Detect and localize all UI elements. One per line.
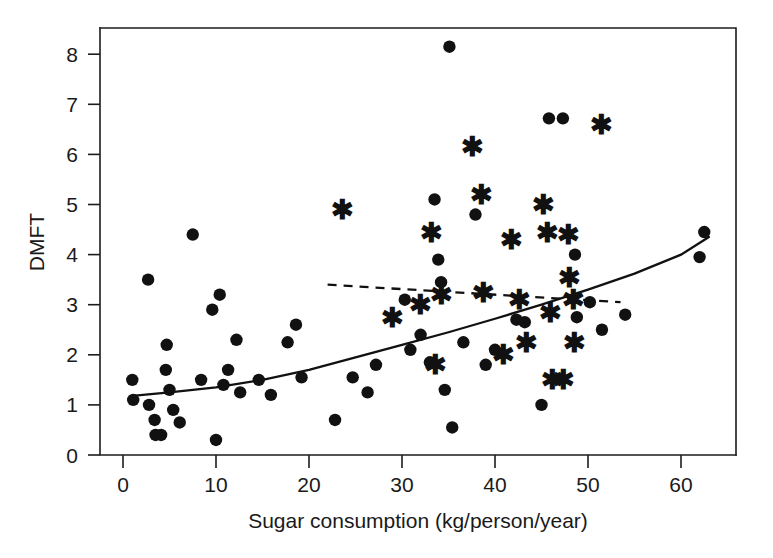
y-tick-label: 5 bbox=[66, 193, 78, 216]
data-point-star: ✱ bbox=[557, 220, 580, 250]
data-point-star: ✱ bbox=[461, 132, 484, 162]
x-axis-ticks: 0102030405060 bbox=[117, 455, 693, 496]
data-point-circle bbox=[281, 336, 293, 348]
data-point-star: ✱ bbox=[515, 328, 538, 358]
plot-frame bbox=[100, 28, 736, 455]
x-tick-label: 50 bbox=[576, 473, 599, 496]
data-point-circle bbox=[457, 336, 469, 348]
x-tick-label: 0 bbox=[117, 473, 129, 496]
y-tick-label: 1 bbox=[66, 393, 78, 416]
data-point-circle bbox=[148, 414, 160, 426]
data-point-circle bbox=[569, 248, 581, 260]
data-point-circle bbox=[174, 416, 186, 428]
data-point-circle bbox=[596, 324, 608, 336]
data-point-star: ✱ bbox=[472, 278, 495, 308]
data-point-circle bbox=[230, 334, 242, 346]
y-axis-ticks: 012345678 bbox=[66, 43, 100, 467]
y-tick-label: 2 bbox=[66, 343, 78, 366]
data-point-circle bbox=[214, 288, 226, 300]
data-point-circle bbox=[195, 374, 207, 386]
x-tick-label: 30 bbox=[390, 473, 413, 496]
data-point-circle bbox=[163, 384, 175, 396]
data-point-circle bbox=[519, 316, 531, 328]
data-point-circle bbox=[222, 364, 234, 376]
chart-figure: 012345678 0102030405060 ✱✱✱✱✱✱✱✱✱✱✱✱✱✱✱✱… bbox=[0, 0, 773, 558]
x-tick-label: 20 bbox=[297, 473, 320, 496]
data-point-circle bbox=[428, 193, 440, 205]
y-axis-title: DMFT bbox=[25, 213, 48, 271]
data-point-star: ✱ bbox=[420, 218, 443, 248]
data-point-circle bbox=[160, 364, 172, 376]
data-point-circle bbox=[161, 339, 173, 351]
data-point-star: ✱ bbox=[470, 180, 493, 210]
data-point-circle bbox=[443, 40, 455, 52]
data-point-star: ✱ bbox=[563, 328, 586, 358]
y-tick-label: 6 bbox=[66, 143, 78, 166]
y-tick-label: 8 bbox=[66, 43, 78, 66]
data-point-circle bbox=[217, 379, 229, 391]
data-point-circle bbox=[584, 296, 596, 308]
data-point-star: ✱ bbox=[331, 195, 354, 225]
data-point-circle bbox=[543, 112, 555, 124]
x-tick-label: 40 bbox=[483, 473, 506, 496]
data-point-star: ✱ bbox=[508, 285, 531, 315]
data-point-circle bbox=[619, 309, 631, 321]
data-point-circle bbox=[143, 399, 155, 411]
y-tick-label: 0 bbox=[66, 444, 78, 467]
y-tick-label: 4 bbox=[66, 243, 78, 266]
data-point-circle bbox=[432, 253, 444, 265]
data-point-circle bbox=[557, 112, 569, 124]
data-point-circle bbox=[347, 371, 359, 383]
data-point-circle bbox=[480, 359, 492, 371]
data-point-circle bbox=[290, 319, 302, 331]
data-point-circle bbox=[210, 434, 222, 446]
data-point-star: ✱ bbox=[552, 365, 575, 395]
data-point-star: ✱ bbox=[492, 340, 515, 370]
data-point-circle bbox=[698, 226, 710, 238]
x-tick-label: 60 bbox=[669, 473, 692, 496]
data-point-circle bbox=[265, 389, 277, 401]
data-point-star: ✱ bbox=[430, 280, 453, 310]
data-point-circle bbox=[404, 344, 416, 356]
data-point-circle bbox=[439, 384, 451, 396]
data-point-star: ✱ bbox=[381, 303, 404, 333]
data-point-circle bbox=[329, 414, 341, 426]
data-point-circle bbox=[187, 228, 199, 240]
data-point-circle bbox=[206, 304, 218, 316]
data-point-circle bbox=[127, 394, 139, 406]
data-point-circle bbox=[295, 371, 307, 383]
data-point-star: ✱ bbox=[539, 298, 562, 328]
data-point-circle bbox=[361, 386, 373, 398]
data-point-circle bbox=[469, 208, 481, 220]
axis-top-right bbox=[100, 28, 736, 455]
data-point-circle bbox=[414, 329, 426, 341]
data-point-star: ✱ bbox=[532, 190, 555, 220]
data-point-circle bbox=[234, 386, 246, 398]
circle-markers-layer bbox=[126, 40, 710, 446]
x-axis-title: Sugar consumption (kg/person/year) bbox=[248, 509, 588, 532]
data-point-star: ✱ bbox=[562, 285, 585, 315]
data-point-circle bbox=[370, 359, 382, 371]
data-point-circle bbox=[535, 399, 547, 411]
data-point-circle bbox=[155, 429, 167, 441]
axis-left-bottom bbox=[100, 28, 736, 455]
data-point-circle bbox=[446, 421, 458, 433]
data-point-circle bbox=[126, 374, 138, 386]
data-point-circle bbox=[167, 404, 179, 416]
y-tick-label: 7 bbox=[66, 93, 78, 116]
data-point-star: ✱ bbox=[590, 110, 613, 140]
data-point-circle bbox=[142, 273, 154, 285]
data-point-star: ✱ bbox=[536, 218, 559, 248]
data-point-star: ✱ bbox=[500, 225, 523, 255]
data-point-circle bbox=[693, 251, 705, 263]
data-point-star: ✱ bbox=[424, 350, 447, 380]
x-tick-label: 10 bbox=[204, 473, 227, 496]
scatter-plot-svg: 012345678 0102030405060 ✱✱✱✱✱✱✱✱✱✱✱✱✱✱✱✱… bbox=[0, 0, 773, 558]
data-point-circle bbox=[253, 374, 265, 386]
y-tick-label: 3 bbox=[66, 293, 78, 316]
